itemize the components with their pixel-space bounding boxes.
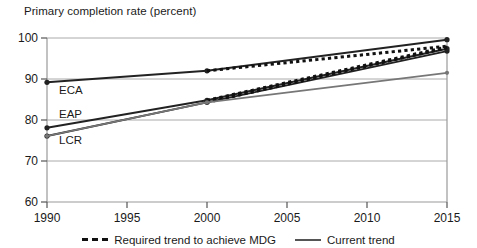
series-label-eap: EAP [59,108,82,120]
legend-item-current-trend: Current trend [295,234,395,246]
x-tick-marks [47,202,447,208]
gridlines [47,38,447,202]
y-tick-label-100: 100 [18,31,38,45]
data-point-marker [44,80,49,85]
x-tick-label-1995: 1995 [114,211,141,225]
data-point-marker [445,71,449,75]
data-point-marker [45,134,49,138]
legend-solid-line-icon [295,239,321,241]
chart-plot-area: 100 90 80 70 60 1990 1995 2000 2005 2010… [0,0,477,248]
y-tick-label-60: 60 [25,195,39,209]
y-tick-label-70: 70 [25,154,39,168]
series-line [47,49,447,128]
y-tick-marks [41,38,47,202]
data-point-marker [44,125,49,130]
legend-label-required-trend: Required trend to achieve MDG [114,234,276,246]
legend-item-required-trend: Required trend to achieve MDG [82,234,276,246]
data-point-marker [444,37,449,42]
x-tick-label-2000: 2000 [194,211,221,225]
x-tick-label-1990: 1990 [34,211,61,225]
series-line [47,73,447,136]
chart-legend: Required trend to achieve MDG Current tr… [0,231,477,248]
y-tick-label-80: 80 [25,113,39,127]
series-layer [44,37,449,139]
y-tick-label-90: 90 [25,72,39,86]
legend-label-current-trend: Current trend [327,234,395,246]
legend-dashed-line-icon [82,238,108,241]
x-tick-label-2010: 2010 [354,211,381,225]
chart-figure: Primary completion rate (percent) 100 90… [0,0,477,248]
data-point-marker [205,100,209,104]
series-label-eca: ECA [59,84,83,96]
x-tick-label-2015: 2015 [434,211,461,225]
series-label-lcr: LCR [59,134,82,146]
x-tick-label-2005: 2005 [274,211,301,225]
